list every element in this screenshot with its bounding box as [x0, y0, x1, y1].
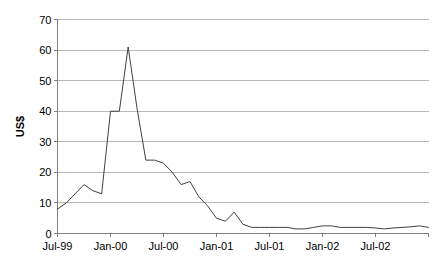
y-tick-label: 40 [39, 105, 51, 117]
y-tick-label: 50 [39, 75, 51, 87]
y-tick-label: 30 [39, 136, 51, 148]
x-tick-label: Jan-02 [306, 240, 340, 252]
line-chart: 010203040506070 Jul-99Jan-00Jul-00Jan-01… [0, 0, 446, 269]
x-tick-label: Jul-99 [43, 240, 73, 252]
y-tick-label: 20 [39, 166, 51, 178]
y-tick-label: 0 [45, 228, 51, 240]
x-tick-label: Jul-00 [149, 240, 179, 252]
x-tick-label: Jul-01 [255, 240, 285, 252]
x-tick-label: Jan-00 [94, 240, 128, 252]
y-axis-title-label: US$ [14, 116, 26, 137]
x-tick-label: Jul-02 [361, 240, 391, 252]
chart-canvas: 010203040506070 Jul-99Jan-00Jul-00Jan-01… [0, 0, 446, 269]
x-tick-labels: Jul-99Jan-00Jul-00Jan-01Jul-01Jan-02Jul-… [43, 240, 391, 252]
x-tick-label: Jan-01 [200, 240, 234, 252]
series-line-us- [58, 47, 429, 229]
y-tick-labels: 010203040506070 [39, 14, 51, 240]
y-tick-label: 10 [39, 197, 51, 209]
y-axis-title: US$ [14, 116, 26, 137]
axis-lines [58, 20, 429, 234]
data-series [58, 47, 429, 229]
y-tick-label: 70 [39, 14, 51, 26]
y-tick-label: 60 [39, 44, 51, 56]
